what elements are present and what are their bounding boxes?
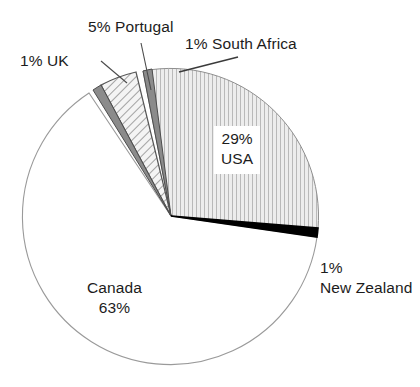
slice-label-canada: Canada 63% [87, 278, 142, 318]
slice-label-south-africa-line1: 1% South Africa [185, 35, 297, 52]
slice-label-new-zealand-line2: New Zealand [320, 278, 418, 298]
slice-label-south-africa: 1% South Africa [185, 35, 297, 53]
slice-label-uk: 1% UK [20, 52, 69, 70]
leader-line-south-africa [179, 57, 238, 72]
slice-label-canada-line2: 63% [87, 298, 142, 318]
slice-label-portugal: 5% Portugal [88, 18, 174, 36]
slice-label-usa-line1: 29% [221, 130, 252, 147]
slice-label-new-zealand-line1: 1% [320, 259, 343, 276]
slice-label-new-zealand: 1% New Zealand [320, 258, 418, 298]
slice-label-uk-line1: 1% UK [20, 52, 69, 69]
pie-chart: 1% UK 5% Portugal 1% South Africa 29% US… [0, 0, 420, 387]
slice-label-canada-line1: Canada [87, 279, 142, 296]
slice-label-usa-line2: USA [221, 149, 253, 169]
slice-label-portugal-line1: 5% Portugal [88, 18, 174, 35]
slice-label-usa: 29% USA [214, 126, 260, 174]
